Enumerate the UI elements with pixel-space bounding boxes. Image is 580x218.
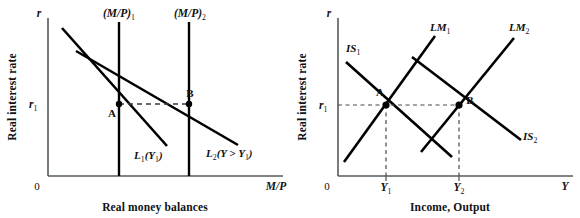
money-market-panel: r r1 0 M/P (M/P)1 (M/P)2 L1(Y1) L2(Y > Y… [0, 0, 290, 218]
money-supply-1-sub: 1 [131, 13, 135, 22]
is-curve-2-label: IS2 [522, 130, 537, 145]
lm-curve-1-main: LM [429, 21, 448, 33]
money-market-x-axis-symbol: M/P [265, 180, 287, 192]
money-demand-1-tail: ) [158, 149, 163, 162]
is-lm-point-a-label: A [376, 86, 384, 98]
money-market-r1-label: r1 [29, 98, 37, 113]
money-supply-1-main: (M/P) [103, 7, 131, 20]
is-lm-panel: r r1 0 Y Y1 Y2 IS1 IS2 LM1 LM2 A B Real … [290, 0, 580, 218]
money-supply-2-main: (M/P) [174, 7, 202, 20]
money-demand-2-tail: ) [248, 147, 253, 160]
money-market-point-b-label: B [186, 87, 194, 99]
lm-curve-1-sub: 1 [447, 27, 451, 36]
economics-figure: r r1 0 M/P (M/P)1 (M/P)2 L1(Y1) L2(Y > Y… [0, 0, 580, 218]
money-supply-2-sub: 2 [202, 13, 206, 22]
money-demand-1-label: L1(Y1) [133, 149, 163, 164]
is-lm-point-b-label: B [466, 94, 474, 106]
money-supply-1-label: (M/P)1 [103, 7, 135, 22]
is-lm-point-b-dot [455, 101, 462, 108]
lm-curve-2-main: LM [508, 21, 527, 33]
is-curve-1-label: IS1 [345, 42, 360, 57]
money-demand-curve-2 [76, 51, 238, 145]
y2-tick-label: Y2 [454, 181, 465, 196]
is-lm-r1-subscript: 1 [323, 105, 327, 114]
money-supply-2-label: (M/P)2 [174, 7, 206, 22]
is-lm-x-axis-label: Income, Output [410, 201, 490, 214]
y1-tick-label: Y1 [381, 181, 392, 196]
money-market-point-a-label: A [108, 107, 116, 119]
is-lm-origin-label: 0 [324, 180, 330, 192]
is-lm-point-a-dot [382, 101, 389, 108]
lm-curve-1-label: LM1 [429, 21, 451, 36]
is-lm-y-axis-label: Real interest rate [296, 53, 308, 140]
is-curve-1-sub: 1 [356, 48, 360, 57]
is-curve-1-main: IS [345, 42, 356, 54]
money-demand-2-paren: (Y > Y [217, 147, 247, 160]
money-market-r1-subscript: 1 [33, 104, 37, 113]
is-curve-2-sub: 2 [533, 136, 537, 145]
money-market-y-axis-label: Real interest rate [6, 53, 18, 140]
money-demand-curve-1 [62, 28, 167, 146]
money-market-origin-label: 0 [34, 180, 40, 192]
money-market-x-axis-label: Real money balances [102, 201, 208, 214]
point-a-dot [116, 101, 122, 107]
y1-tick-sub: 1 [388, 187, 392, 196]
lm-curve-2-sub: 2 [526, 27, 530, 36]
lm-curve-2-label: LM2 [508, 21, 530, 36]
point-b-dot [186, 101, 192, 107]
is-lm-x-axis-symbol: Y [561, 180, 569, 192]
money-demand-2-label: L2(Y > Y1) [205, 147, 252, 162]
money-market-y-axis-symbol: r [37, 7, 42, 19]
y2-tick-sub: 2 [461, 187, 465, 196]
is-lm-y-axis-symbol: r [327, 7, 332, 19]
is-lm-r1-label: r1 [319, 99, 327, 114]
is-curve-2-main: IS [522, 130, 533, 142]
